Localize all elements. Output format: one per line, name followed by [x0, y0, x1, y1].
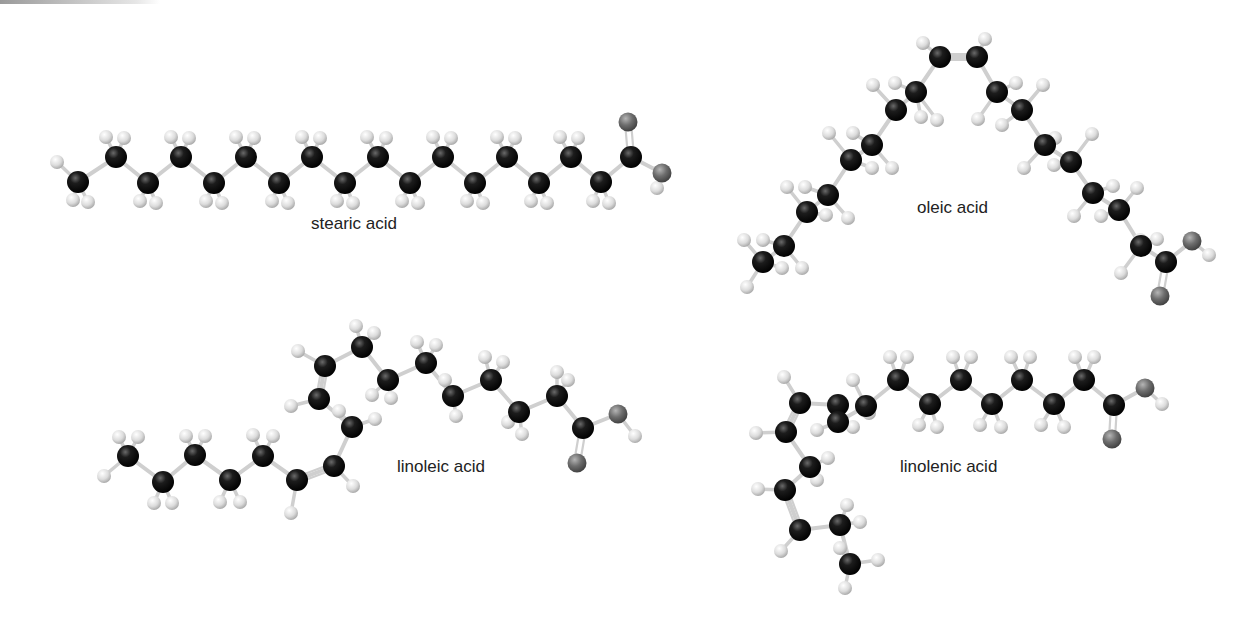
- hydrogen-atom: [871, 553, 885, 567]
- hydrogen-atom: [112, 430, 126, 444]
- hydrogen-atom: [367, 326, 381, 340]
- carbon-atom: [152, 471, 174, 493]
- carbon-atom: [367, 146, 389, 168]
- label-linoleic-acid: linoleic acid: [397, 457, 485, 477]
- hydrogen-atom: [1150, 232, 1164, 246]
- carbon-atom: [789, 392, 811, 414]
- atoms: [97, 319, 642, 520]
- hydrogen-atom: [1009, 76, 1023, 90]
- carbon-atom: [799, 456, 821, 478]
- carbon-atom: [268, 172, 290, 194]
- carbon-atom: [796, 201, 818, 223]
- hydrogen-atom: [346, 196, 360, 210]
- carbon-atom: [950, 369, 972, 391]
- hydrogen-atom: [841, 211, 855, 225]
- hydrogen-atom: [368, 412, 382, 426]
- hydrogen-atom: [540, 196, 554, 210]
- carbon-atom: [341, 416, 363, 438]
- carbon-atom: [528, 172, 550, 194]
- carbon-atom: [1011, 99, 1033, 121]
- hydrogen-atom: [846, 373, 860, 387]
- hydrogen-atom: [165, 496, 179, 510]
- carbon-atom: [590, 171, 612, 193]
- hydrogen-atom: [444, 131, 458, 145]
- hydrogen-atom: [795, 261, 809, 275]
- hydrogen-atom: [994, 420, 1008, 434]
- hydrogen-atom: [819, 208, 833, 222]
- hydrogen-atom: [1057, 420, 1071, 434]
- hydrogen-atom: [1047, 158, 1061, 172]
- molecule-canvas: [0, 0, 1245, 634]
- bonds: [744, 39, 1209, 297]
- carbon-atom: [184, 444, 206, 466]
- hydrogen-atom: [281, 196, 295, 210]
- hydrogen-atom: [900, 350, 914, 364]
- carbon-atom: [1060, 151, 1082, 173]
- hydrogen-atom: [780, 180, 794, 194]
- hydrogen-atom: [97, 469, 111, 483]
- carbon-atom: [117, 445, 139, 467]
- hydrogen-atom: [777, 370, 791, 384]
- hydrogen-atom: [229, 130, 243, 144]
- hydrogen-atom: [1114, 266, 1128, 280]
- carbon-atom: [885, 99, 907, 121]
- hydrogen-atom: [1036, 78, 1050, 92]
- carbon-atom: [308, 388, 330, 410]
- hydrogen-atom: [916, 36, 930, 50]
- carbon-atom: [829, 514, 851, 536]
- hydrogen-atom: [553, 130, 567, 144]
- carbon-atom: [496, 146, 518, 168]
- oxygen-atom: [1103, 430, 1122, 449]
- hydrogen-atom: [822, 126, 836, 140]
- hydrogen-atom: [628, 429, 642, 443]
- carbon-atom: [1011, 369, 1033, 391]
- carbon-atom: [105, 146, 127, 168]
- hydrogen-atom: [1017, 161, 1031, 175]
- hydrogen-atom: [164, 130, 178, 144]
- carbon-atom: [789, 519, 811, 541]
- hydrogen-atom: [774, 544, 788, 558]
- hydrogen-atom: [1068, 350, 1082, 364]
- carbon-atom: [377, 369, 399, 391]
- molecule-stearic-acid: [50, 113, 672, 211]
- hydrogen-atom: [50, 155, 64, 169]
- hydrogen-atom: [131, 430, 145, 444]
- carbon-atom: [827, 411, 849, 433]
- oxygen-atom: [1136, 379, 1155, 398]
- hydrogen-atom: [349, 319, 363, 333]
- hydrogen-atom: [756, 233, 770, 247]
- oxygen-atom: [619, 113, 638, 132]
- carbon-atom: [301, 146, 323, 168]
- oxygen-atom: [609, 405, 628, 424]
- carbon-atom: [905, 81, 927, 103]
- carbon-atom: [861, 134, 883, 156]
- hydrogen-atom: [1155, 397, 1169, 411]
- carbon-atom: [817, 184, 839, 206]
- label-linolenic-acid: linolenic acid: [900, 457, 997, 477]
- hydrogen-atom: [313, 131, 327, 145]
- oxygen-atom: [568, 454, 587, 473]
- oxygen-atom: [653, 164, 672, 183]
- atoms: [50, 113, 672, 211]
- carbon-atom: [286, 469, 308, 491]
- carbon-atom: [464, 172, 486, 194]
- hydrogen-atom: [410, 335, 424, 349]
- hydrogen-atom: [346, 479, 360, 493]
- hydrogen-atom: [332, 404, 346, 418]
- hydrogen-atom: [438, 373, 452, 387]
- hydrogen-atom: [749, 426, 763, 440]
- hydrogen-atom: [524, 194, 538, 208]
- label-oleic-acid: oleic acid: [917, 198, 988, 218]
- carbon-atom: [480, 369, 502, 391]
- carbon-atom: [919, 393, 941, 415]
- hydrogen-atom: [99, 130, 113, 144]
- hydrogen-atom: [199, 194, 213, 208]
- hydrogen-atom: [81, 195, 95, 209]
- hydrogen-atom: [295, 130, 309, 144]
- hydrogen-atom: [247, 131, 261, 145]
- hydrogen-atom: [1067, 209, 1081, 223]
- hydrogen-atom: [330, 194, 344, 208]
- hydrogen-atom: [1023, 350, 1037, 364]
- hydrogen-atom: [930, 113, 944, 127]
- carbon-atom: [966, 46, 988, 68]
